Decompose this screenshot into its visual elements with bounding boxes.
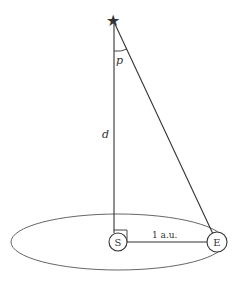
star-earth-line (114, 22, 213, 234)
sun-marker: S (109, 233, 127, 251)
earth-label: E (213, 237, 220, 248)
baseline-label: 1 a.u. (152, 230, 178, 240)
star-icon: ★ (106, 11, 120, 30)
parallax-diagram: ★ p d 1 a.u. S E (0, 0, 239, 286)
distance-label: d (102, 128, 109, 141)
parallax-angle-arc (114, 49, 127, 51)
sun-label: S (115, 237, 122, 248)
earth-marker: E (207, 232, 227, 252)
parallax-angle-label: p (116, 54, 123, 67)
